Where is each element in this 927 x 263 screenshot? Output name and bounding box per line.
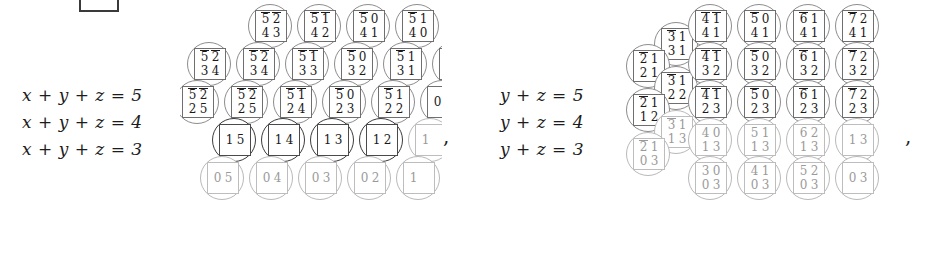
matrix-digit-top-1: 0 [760, 13, 771, 26]
matrix-digit-bottom-0: 0 [359, 172, 370, 185]
matrix-digit-bottom-1: 1 [711, 27, 722, 40]
lattice-cell-rstair-5[interactable]: 2103 [626, 132, 672, 178]
matrix-digit-top-0: 7 [847, 89, 858, 102]
matrix-row-bottom: 03 [700, 179, 722, 192]
cell-matrix-box: 5234 [194, 48, 226, 80]
matrix-digit-bottom-0: 0 [749, 179, 760, 192]
matrix-digit-top-0: 5 [260, 13, 271, 26]
matrix-digit-top-0: 4 [700, 127, 711, 140]
matrix-row-top: 41 [700, 13, 722, 26]
matrix-digit-top-0: 4 [700, 89, 711, 102]
lattice-cell-l4-3[interactable]: 02 [347, 156, 393, 202]
matrix-digit-top-0: 3 [700, 165, 711, 178]
lattice-cell-l4-0[interactable]: 05 [200, 156, 246, 202]
matrix-digit-bottom-0: 1 [420, 134, 431, 147]
cell-matrix-box: 05 [207, 162, 239, 194]
matrix-digit-top-1: 1 [711, 13, 722, 26]
matrix-digit-bottom-0: 0 [212, 172, 223, 185]
matrix-digit-bottom-0: 4 [847, 27, 858, 40]
matrix-row-top: 51 [309, 13, 331, 26]
matrix-digit-top-1: 0 [711, 127, 722, 140]
lattice-cell-r4-3[interactable]: 03 [835, 156, 881, 202]
matrix-digit-top-0: 5 [309, 13, 320, 26]
matrix-digit-bottom-0: 1 [798, 141, 809, 154]
matrix-row-bottom: 32 [346, 65, 368, 78]
matrix-row-top: 52 [248, 51, 270, 64]
lattice-cell-r4-2[interactable]: 5203 [786, 156, 832, 202]
matrix-digit-bottom-1: 3 [308, 65, 319, 78]
lattice-cell-lfrag-1[interactable]: 5225 [180, 80, 221, 126]
matrix-row-bottom: 41 [798, 27, 820, 40]
matrix-row-top: 50 [749, 51, 771, 64]
matrix-digit-top-0: 3 [666, 119, 677, 132]
matrix-row-top: 30 [700, 165, 722, 178]
matrix-row-bottom: 1 [420, 134, 442, 147]
matrix-digit-top-1: 2 [247, 89, 258, 102]
matrix-row-top: 52 [199, 51, 221, 64]
cell-matrix-box: 7232 [842, 48, 874, 80]
matrix-row-bottom: 02 [359, 172, 381, 185]
matrix-digit-bottom-1: 3 [711, 179, 722, 192]
lattice-cell-l4-1[interactable]: 04 [249, 156, 295, 202]
matrix-row-bottom: 41 [358, 27, 380, 40]
cell-matrix-box: 4132 [695, 48, 727, 80]
matrix-row-bottom: 23 [334, 103, 356, 116]
matrix-digit-bottom-1: 4 [210, 65, 221, 78]
left-equation-line-3: x + y + z = 3 [22, 136, 143, 163]
cell-matrix-box: 5113 [744, 124, 776, 156]
matrix-digit-top-0: 2 [638, 141, 649, 154]
matrix-digit-bottom-0: 3 [395, 65, 406, 78]
matrix-digit-bottom-1: 1 [369, 27, 380, 40]
matrix-digit-bottom-0: 2 [847, 103, 858, 116]
matrix-digit-top-0: 7 [847, 13, 858, 26]
matrix-digit-bottom-0: 0 [798, 179, 809, 192]
matrix-digit-top-1: 1 [809, 51, 820, 64]
matrix-digit-bottom-1: 1 [406, 65, 417, 78]
matrix-digit-top-1: 0 [760, 51, 771, 64]
matrix-digit-bottom-1: 5 [198, 103, 209, 116]
matrix-digit-bottom-1: 5 [235, 134, 246, 147]
lattice-cell-l4-2[interactable]: 03 [298, 156, 344, 202]
matrix-row-top: 31 [666, 31, 688, 44]
matrix-row-bottom: 0 [432, 96, 442, 109]
matrix-digit-bottom-1: 4 [259, 65, 270, 78]
matrix-digit-top-1: 1 [418, 13, 429, 26]
matrix-digit-top-0: 5 [334, 89, 345, 102]
matrix-row-top: 72 [847, 89, 869, 102]
matrix-digit-bottom-1: 2 [382, 134, 393, 147]
matrix-digit-top-0: 5 [395, 51, 406, 64]
cell-matrix-box: 4103 [744, 162, 776, 194]
cell-matrix-box: 7241 [842, 10, 874, 42]
matrix-digit-top-1: 1 [711, 51, 722, 64]
matrix-row-bottom: 05 [212, 172, 234, 185]
matrix-digit-top-1: 2 [858, 89, 869, 102]
matrix-row-bottom: 03 [798, 179, 820, 192]
matrix-row-bottom: 15 [224, 134, 246, 147]
lattice-cell-ledge-3[interactable]: 1 [396, 156, 442, 202]
matrix-row-top: 52 [236, 89, 258, 102]
matrix-row-top: 51 [285, 89, 307, 102]
cell-matrix-box: 14 [268, 124, 300, 156]
matrix-digit-top-0: 5 [749, 51, 760, 64]
matrix-digit-top-0: 5 [749, 127, 760, 140]
matrix-digit-bottom-0: 1 [847, 134, 858, 147]
cell-matrix-box: 02 [354, 162, 386, 194]
matrix-digit-top-0: 2 [638, 53, 649, 66]
matrix-digit-bottom-0: 1 [408, 172, 419, 185]
matrix-row-top: 61 [798, 51, 820, 64]
matrix-digit-top-1: 1 [677, 31, 688, 44]
lattice-cell-r4-0[interactable]: 3003 [688, 156, 734, 202]
matrix-row-bottom: 42 [309, 27, 331, 40]
matrix-digit-bottom-0: 2 [700, 103, 711, 116]
cell-matrix-box: 15 [219, 124, 251, 156]
left-lattice-diagram: 5243514250415140523451335032513152255124… [180, 0, 442, 263]
lattice-cell-r4-1[interactable]: 4103 [737, 156, 783, 202]
matrix-digit-bottom-0: 0 [310, 172, 321, 185]
cell-matrix-box: 5122 [378, 86, 410, 118]
cell-matrix-box: 5023 [329, 86, 361, 118]
matrix-digit-top-1: 1 [677, 119, 688, 132]
matrix-digit-top-1: 1 [677, 75, 688, 88]
matrix-digit-bottom-0: 1 [371, 134, 382, 147]
matrix-digit-top-0: 6 [798, 89, 809, 102]
matrix-digit-top-1: 2 [198, 89, 209, 102]
